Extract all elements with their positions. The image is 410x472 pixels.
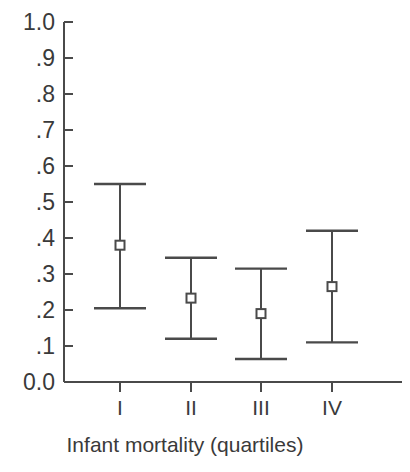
data-point-marker [328,282,337,291]
error-bar-group [235,269,287,359]
y-axis-ticks [64,22,73,382]
y-tick-label: 0.0 [23,369,55,395]
y-tick-label: .8 [36,81,55,107]
error-bar-group [165,258,217,339]
x-tick-label: II [185,396,197,419]
y-tick-label: .6 [36,153,55,179]
x-tick-label: IV [322,396,342,419]
x-axis-tick-labels: IIIIIIIV [117,396,342,419]
y-tick-label: .4 [36,225,55,251]
error-bar-group [306,231,358,343]
data-series-estimate [94,184,358,359]
error-bar-chart: 1.0.9.8.7.6.5.4.3.2.10.0 IIIIIIIV Infant… [0,0,410,472]
y-tick-label: .2 [36,297,55,323]
x-axis-title: Infant mortality (quartiles) [67,433,304,456]
x-tick-label: III [252,396,270,419]
data-point-marker [187,294,196,303]
x-tick-label: I [117,396,123,419]
y-axis: 1.0.9.8.7.6.5.4.3.2.10.0 [23,9,73,395]
x-axis-ticks [120,382,332,392]
data-point-marker [116,241,125,250]
y-tick-label: .7 [36,117,55,143]
x-axis: IIIIIIIV [64,382,402,419]
chart-figure: 1.0.9.8.7.6.5.4.3.2.10.0 IIIIIIIV Infant… [0,0,410,472]
data-point-marker [257,309,266,318]
error-bar-group [94,184,146,308]
y-axis-tick-labels: 1.0.9.8.7.6.5.4.3.2.10.0 [23,9,55,395]
y-tick-label: .9 [36,45,55,71]
y-tick-label: .1 [36,333,55,359]
y-tick-label: .5 [36,189,55,215]
y-tick-label: 1.0 [23,9,55,35]
y-tick-label: .3 [36,261,55,287]
